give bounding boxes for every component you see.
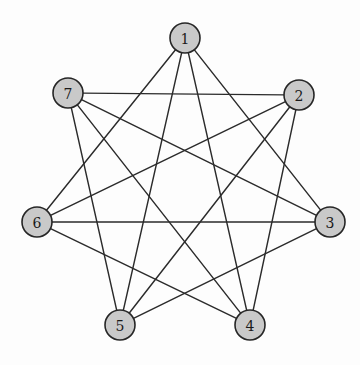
graph-figure: 1234567 xyxy=(0,0,360,365)
graph-node-4: 4 xyxy=(235,310,265,340)
graph-node-3: 3 xyxy=(315,207,345,237)
graph-node-7: 7 xyxy=(53,78,83,108)
graph-node-6: 6 xyxy=(22,207,52,237)
graph-edge xyxy=(123,52,182,311)
node-label: 2 xyxy=(295,88,304,104)
node-label: 5 xyxy=(116,318,125,334)
graph-node-2: 2 xyxy=(284,80,314,110)
node-label: 3 xyxy=(326,215,335,231)
graph-edge xyxy=(83,93,285,95)
graph-edge xyxy=(253,109,296,311)
graph-edge xyxy=(50,101,286,215)
graph-canvas: 1234567 xyxy=(0,0,360,365)
graph-edge xyxy=(188,52,247,311)
node-label: 7 xyxy=(64,86,73,102)
edge-layer xyxy=(46,49,321,318)
graph-node-5: 5 xyxy=(105,310,135,340)
graph-node-1: 1 xyxy=(170,23,200,53)
node-label: 6 xyxy=(33,215,42,231)
node-label: 4 xyxy=(246,318,255,334)
node-label: 1 xyxy=(181,31,190,47)
graph-edge xyxy=(129,106,290,313)
graph-edge xyxy=(71,107,117,311)
